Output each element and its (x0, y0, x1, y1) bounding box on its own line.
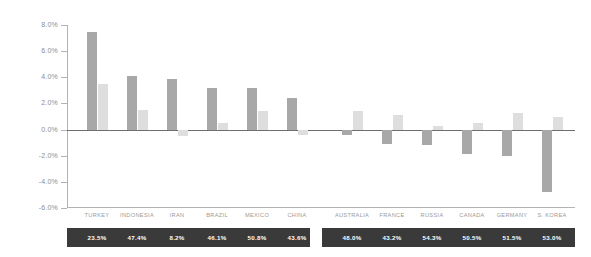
bar (87, 32, 97, 130)
footer-value-label: 50.5% (463, 228, 482, 247)
bar (287, 98, 297, 129)
x-axis-category-label: INDONESIA (120, 212, 154, 218)
y-axis-tick (61, 77, 67, 78)
x-axis-category-label: CANADA (459, 212, 484, 218)
zero-baseline (67, 130, 575, 131)
plot-area (67, 25, 575, 208)
y-axis-tick-label: -4.0% (10, 178, 58, 185)
y-axis-tick-label: 2.0% (10, 99, 58, 106)
x-axis-category-label: FRANCE (379, 212, 404, 218)
footer-value-label: 50.8% (248, 228, 267, 247)
bar (393, 115, 403, 129)
y-axis-tick-label: 4.0% (10, 73, 58, 80)
y-axis-tick (61, 51, 67, 52)
y-axis-line (67, 25, 68, 208)
x-axis-category-label: RUSSIA (421, 212, 444, 218)
bar (298, 130, 308, 135)
bar (178, 130, 188, 137)
y-axis-tick (61, 182, 67, 183)
x-axis-line (67, 207, 575, 208)
footer-value-label: 23.5% (88, 228, 107, 247)
bar (382, 130, 392, 144)
x-axis-category-label: TURKEY (85, 212, 110, 218)
y-axis-tick (61, 208, 67, 209)
x-axis-category-label: AUSTRALIA (335, 212, 369, 218)
bar (542, 130, 552, 193)
bar (553, 117, 563, 130)
bar (247, 88, 257, 130)
footer-value-label: 8.2% (169, 228, 184, 247)
x-axis-category-label: BRAZIL (206, 212, 228, 218)
bar (462, 130, 472, 155)
bar-chart: 8.0%6.0%4.0%2.0%0.0%-2.0%-4.0%-6.0% TURK… (0, 0, 591, 257)
footer-value-label: 51.5% (503, 228, 522, 247)
y-axis-tick-label: 0.0% (10, 126, 58, 133)
x-axis-category-label: IRAN (170, 212, 185, 218)
bar (342, 130, 352, 135)
bar (127, 76, 137, 130)
y-axis-tick (61, 103, 67, 104)
footer-value-label: 43.2% (383, 228, 402, 247)
footer-value-label: 54.3% (423, 228, 442, 247)
y-axis-tick-label: -6.0% (10, 204, 58, 211)
x-axis-category-label: CHINA (287, 212, 306, 218)
bar (473, 123, 483, 130)
y-axis-tick-label: -2.0% (10, 152, 58, 159)
bar (513, 113, 523, 130)
bar (433, 126, 443, 130)
x-axis-category-label: MEXICO (245, 212, 269, 218)
bar (422, 130, 432, 146)
bar (502, 130, 512, 156)
bar (258, 111, 268, 129)
y-axis-tick-label: 6.0% (10, 47, 58, 54)
x-axis-category-label: S. KOREA (537, 212, 566, 218)
y-axis-tick-label: 8.0% (10, 21, 58, 28)
bar (98, 84, 108, 130)
bar (138, 110, 148, 130)
bar (167, 79, 177, 130)
footer-value-label: 48.0% (343, 228, 362, 247)
y-axis-tick (61, 156, 67, 157)
bar (207, 88, 217, 130)
x-axis-category-label: GERMANY (497, 212, 528, 218)
bar (218, 123, 228, 130)
y-axis-tick (61, 130, 67, 131)
y-axis-tick (61, 25, 67, 26)
footer-value-label: 43.6% (288, 228, 307, 247)
footer-value-label: 46.1% (208, 228, 227, 247)
footer-value-label: 47.4% (128, 228, 147, 247)
footer-value-label: 53.0% (543, 228, 562, 247)
bar (353, 111, 363, 129)
